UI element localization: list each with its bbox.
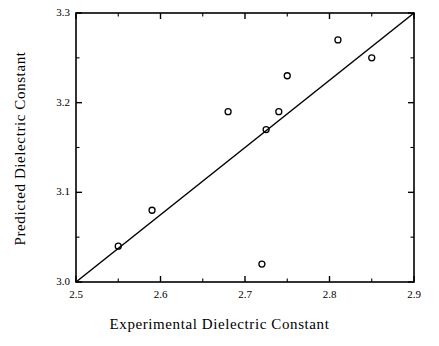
data-point xyxy=(259,261,265,267)
y-tick-label: 3.3 xyxy=(36,6,70,18)
y-tick-label: 3.2 xyxy=(36,96,70,108)
scatter-plot-figure: Predicted Dielectric Constant Experiment… xyxy=(0,0,439,346)
data-point xyxy=(335,37,341,43)
x-tick-label: 2.6 xyxy=(141,288,181,300)
data-point xyxy=(276,109,282,115)
y-axis-title: Predicted Dielectric Constant xyxy=(12,51,29,245)
data-point xyxy=(225,109,231,115)
x-tick-label: 2.8 xyxy=(310,288,350,300)
data-point xyxy=(284,73,290,79)
reference-line xyxy=(76,13,414,282)
x-axis-title: Experimental Dielectric Constant xyxy=(0,316,439,333)
data-point xyxy=(149,207,155,213)
x-tick-label: 2.7 xyxy=(225,288,265,300)
y-tick-label: 3.1 xyxy=(36,185,70,197)
identity-line xyxy=(76,13,414,282)
y-axis-title-container: Predicted Dielectric Constant xyxy=(0,0,40,296)
x-tick-label: 2.9 xyxy=(394,288,434,300)
x-tick-label: 2.5 xyxy=(56,288,96,300)
data-point xyxy=(369,55,375,61)
y-tick-label: 3.0 xyxy=(36,275,70,287)
data-points xyxy=(115,37,375,267)
